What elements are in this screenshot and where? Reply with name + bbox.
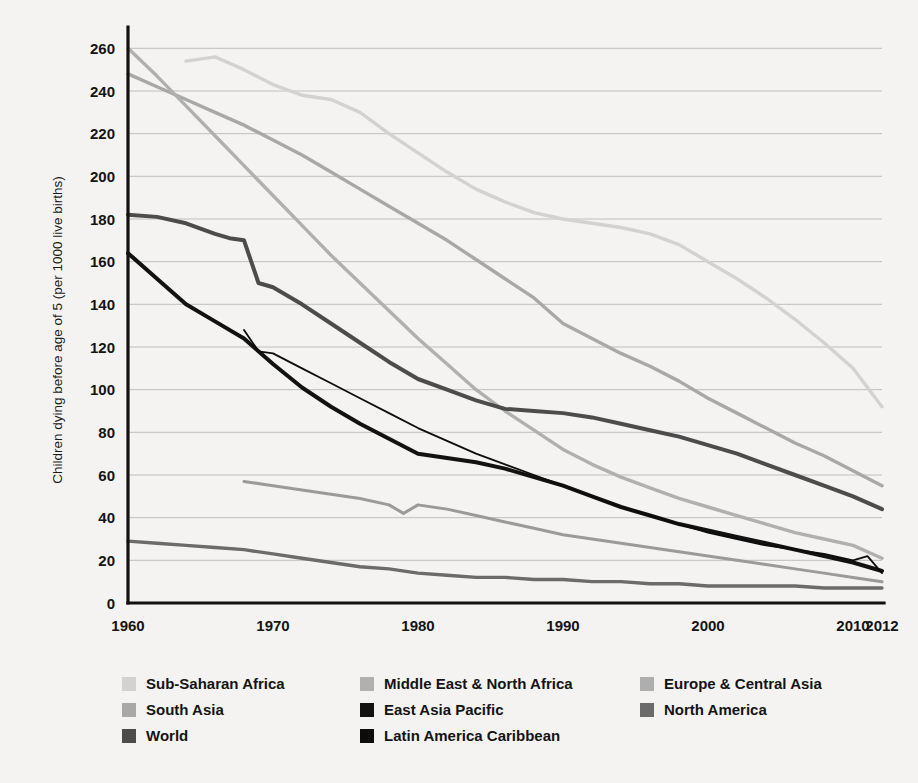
y-axis-title-group: Children dying before age of 5 (per 1000… <box>50 176 65 484</box>
x-tick-label: 2000 <box>691 617 724 634</box>
legend-swatch-sub-saharan-africa <box>122 677 136 691</box>
x-tick-label: 1980 <box>401 617 434 634</box>
y-axis-title: Children dying before age of 5 (per 1000… <box>50 176 65 484</box>
legend-swatch-latin-america-caribbean <box>360 729 374 743</box>
x-tick-label: 1960 <box>111 617 144 634</box>
x-tick-labels-group: 1960197019801990200020102012 <box>111 617 898 634</box>
series-line-latin-america-caribbean <box>244 330 882 573</box>
y-tick-label: 140 <box>90 296 115 313</box>
legend-swatch-north-america <box>640 703 654 717</box>
y-tick-label: 180 <box>90 211 115 228</box>
chart-page: 020406080100120140160180200220240260 196… <box>0 0 918 783</box>
y-tick-label: 80 <box>98 424 115 441</box>
y-tick-label: 240 <box>90 83 115 100</box>
x-tick-label: 1970 <box>256 617 289 634</box>
legend-swatch-world <box>122 729 136 743</box>
y-tick-labels-group: 020406080100120140160180200220240260 <box>90 40 115 612</box>
legend-swatch-europe-central-asia <box>640 677 654 691</box>
y-tick-label: 40 <box>98 509 115 526</box>
y-tick-label: 120 <box>90 339 115 356</box>
y-tick-label: 0 <box>107 595 115 612</box>
series-line-sub-saharan-africa <box>186 57 882 407</box>
series-line-south-asia <box>128 74 882 486</box>
y-tick-label: 20 <box>98 552 115 569</box>
legend-label-middle-east-north-africa: Middle East & North Africa <box>384 675 573 692</box>
legend-label-south-asia: South Asia <box>146 701 224 718</box>
legend-label-sub-saharan-africa: Sub-Saharan Africa <box>146 675 285 692</box>
legend-swatch-south-asia <box>122 703 136 717</box>
legend-label-east-asia-pacific: East Asia Pacific <box>384 701 504 718</box>
y-tick-label: 260 <box>90 40 115 57</box>
series-group <box>128 48 882 588</box>
y-tick-label: 220 <box>90 125 115 142</box>
axis-group <box>128 27 884 603</box>
legend-group: Sub-Saharan AfricaSouth AsiaWorldMiddle … <box>122 675 822 744</box>
legend-label-north-america: North America <box>664 701 767 718</box>
y-tick-label: 200 <box>90 168 115 185</box>
x-tick-label: 2012 <box>865 617 898 634</box>
y-tick-label: 100 <box>90 381 115 398</box>
legend-label-latin-america-caribbean: Latin America Caribbean <box>384 727 560 744</box>
legend-label-europe-central-asia: Europe & Central Asia <box>664 675 822 692</box>
x-tick-label: 1990 <box>546 617 579 634</box>
legend-swatch-middle-east-north-africa <box>360 677 374 691</box>
legend-label-world: World <box>146 727 188 744</box>
y-tick-label: 60 <box>98 467 115 484</box>
y-tick-label: 160 <box>90 253 115 270</box>
legend-swatch-east-asia-pacific <box>360 703 374 717</box>
under-five-mortality-line-chart: 020406080100120140160180200220240260 196… <box>0 0 918 783</box>
